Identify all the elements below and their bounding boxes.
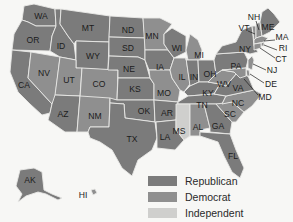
label-MD: MD	[258, 92, 271, 102]
legend-swatch-independent	[148, 208, 177, 218]
label-AL: AL	[193, 122, 204, 132]
label-WI: WI	[172, 43, 183, 53]
label-OH: OH	[204, 69, 217, 79]
label-HI: HI	[79, 190, 88, 200]
label-MI: MI	[194, 50, 204, 60]
label-WA: WA	[34, 11, 48, 21]
label-MN: MN	[145, 31, 158, 41]
label-NC: NC	[232, 98, 244, 108]
label-IA: IA	[156, 62, 164, 72]
label-CT: CT	[275, 54, 287, 64]
legend-item-independent: Independent	[148, 205, 243, 221]
label-ID: ID	[57, 41, 66, 51]
legend-item-republican: Republican	[148, 173, 243, 189]
label-AK: AK	[24, 175, 36, 185]
state-NY[interactable]	[216, 26, 258, 54]
label-WY: WY	[86, 51, 100, 61]
label-CA: CA	[18, 80, 30, 90]
label-NM: NM	[88, 111, 101, 121]
state-AK[interactable]	[16, 168, 62, 202]
state-CT[interactable]	[254, 43, 261, 50]
label-AR: AR	[161, 108, 173, 118]
legend-label: Independent	[185, 207, 243, 219]
label-LA: LA	[160, 132, 171, 142]
label-MO: MO	[157, 88, 171, 98]
legend-label: Republican	[185, 175, 238, 187]
label-MS: MS	[173, 126, 186, 136]
label-IN: IN	[190, 72, 199, 82]
label-DE: DE	[265, 79, 277, 89]
label-MA: MA	[276, 32, 289, 42]
label-UT: UT	[63, 75, 75, 85]
label-AZ: AZ	[58, 109, 69, 119]
label-NE: NE	[123, 64, 135, 74]
label-NV: NV	[38, 68, 50, 78]
label-PA: PA	[231, 61, 242, 71]
label-NY: NY	[239, 44, 251, 54]
label-VA: VA	[233, 83, 244, 93]
label-SC: SC	[224, 109, 236, 119]
label-CO: CO	[93, 79, 106, 89]
label-SD: SD	[122, 43, 134, 53]
label-MT: MT	[82, 23, 95, 33]
label-NJ: NJ	[267, 65, 278, 75]
label-OR: OR	[27, 35, 40, 45]
label-IL: IL	[178, 72, 185, 82]
label-ND: ND	[122, 25, 134, 35]
label-TN: TN	[196, 100, 207, 110]
label-GA: GA	[212, 121, 225, 131]
legend-label: Democrat	[185, 191, 231, 203]
state-HI[interactable]	[91, 189, 97, 195]
label-FL: FL	[228, 151, 238, 161]
label-KS: KS	[129, 84, 141, 94]
label-OK: OK	[138, 106, 151, 116]
us-map: WA OR CA NV ID MT WY UT CO AZ NM ND SD N…	[0, 0, 293, 222]
label-TX: TX	[127, 134, 138, 144]
label-KY: KY	[202, 88, 214, 98]
state-NJ[interactable]	[248, 56, 254, 70]
state-DE[interactable]	[246, 70, 250, 76]
label-VT: VT	[239, 23, 251, 33]
label-RI: RI	[279, 43, 288, 53]
label-NH: NH	[248, 12, 260, 22]
legend: Republican Democrat Independent	[148, 173, 243, 221]
legend-swatch-republican	[148, 176, 177, 186]
legend-swatch-democrat	[148, 192, 177, 202]
label-WV: WV	[217, 79, 231, 89]
label-ME: ME	[262, 22, 275, 32]
legend-item-democrat: Democrat	[148, 189, 243, 205]
